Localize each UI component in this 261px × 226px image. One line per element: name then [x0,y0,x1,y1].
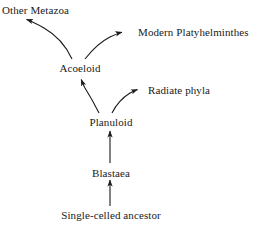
node-label-acoeloid: Acoeloid [59,62,100,74]
edge-acoeloid-to-other-metazoa [27,20,73,60]
phylogeny-diagram: Other Metazoa Modern Platyhelminthes Aco… [0,0,261,226]
node-label-planuloid: Planuloid [89,116,132,128]
node-label-blastaea: Blastaea [92,167,130,179]
node-label-modern-platyhelminthes: Modern Platyhelminthes [138,26,249,38]
edge-planuloid-to-radiate-phyla [112,89,138,113]
node-label-other-metazoa: Other Metazoa [2,4,69,16]
edge-acoeloid-to-modern-platyhelminthes [85,32,122,59]
edge-planuloid-to-acoeloid [81,80,99,114]
node-label-radiate-phyla: Radiate phyla [148,84,210,96]
node-label-single-celled-ancestor: Single-celled ancestor [61,209,161,221]
